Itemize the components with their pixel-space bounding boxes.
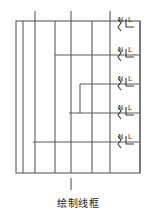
wireframe-figure: N L N L N L N L N L (0, 0, 156, 224)
outlet-1-neutral-label: N (118, 16, 123, 24)
outlet-2-live-label: L (128, 46, 132, 54)
outlet-1[interactable]: N L (118, 16, 134, 31)
figure-caption: 绘制线框 (0, 198, 156, 210)
outlet-5-neutral-label: N (118, 133, 123, 141)
outlet-4[interactable]: N L (118, 104, 134, 119)
outlet-3-live-label: L (128, 75, 132, 83)
outlet-3-neutral-label: N (118, 75, 123, 83)
branch-rails-group (33, 55, 140, 142)
outlet-1-live-label: L (128, 16, 132, 24)
outlet-2[interactable]: N L (118, 46, 134, 61)
wiring-diagram: N L N L N L N L N L (0, 0, 156, 224)
outlet-5[interactable]: N L (118, 133, 134, 148)
outlet-4-live-label: L (128, 104, 132, 112)
outlet-5-live-label: L (128, 133, 132, 141)
outlet-3[interactable]: N L (118, 75, 134, 90)
top-stubs-group (35, 11, 110, 21)
vertical-conductors-group (23, 21, 110, 173)
outlet-2-neutral-label: N (118, 46, 123, 54)
outlet-4-neutral-label: N (118, 104, 123, 112)
